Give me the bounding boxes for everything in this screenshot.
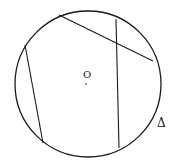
delta-label: Δ <box>157 116 166 130</box>
circle-diagram: O Δ <box>0 0 176 164</box>
top-right-chord <box>59 15 153 61</box>
center-label: O <box>83 69 91 80</box>
center-point <box>85 83 87 85</box>
circle-outline <box>15 11 161 157</box>
vertical-chord <box>116 19 119 148</box>
left-chord <box>25 45 43 143</box>
diagram-canvas: O Δ <box>0 0 176 164</box>
